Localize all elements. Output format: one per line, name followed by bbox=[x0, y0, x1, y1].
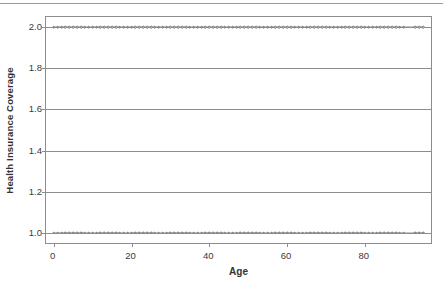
y-axis-tick-labels: 1.01.21.41.61.82.0 bbox=[16, 0, 42, 286]
x-axis-tick-labels: 020406080 bbox=[45, 0, 432, 286]
x-axis-tick-label: 60 bbox=[281, 250, 292, 261]
y-axis-tick-label: 1.6 bbox=[18, 103, 42, 114]
y-axis-tick-label: 1.4 bbox=[18, 144, 42, 155]
x-axis-tick-label: 80 bbox=[359, 250, 370, 261]
y-axis-tick-label: 1.8 bbox=[18, 62, 42, 73]
y-axis-tick-label: 1.0 bbox=[18, 226, 42, 237]
x-axis-title: Age bbox=[45, 266, 432, 277]
y-axis-tick-label: 2.0 bbox=[18, 21, 42, 32]
x-axis-tick-label: 40 bbox=[203, 250, 214, 261]
chart-figure: Health Insurance Coverage 1.01.21.41.61.… bbox=[0, 0, 443, 286]
x-axis-tick-label: 20 bbox=[125, 250, 136, 261]
x-axis-tick-label: 0 bbox=[50, 250, 55, 261]
y-axis-tick-label: 1.2 bbox=[18, 185, 42, 196]
y-axis-title-text: Health Insurance Coverage bbox=[4, 67, 15, 193]
